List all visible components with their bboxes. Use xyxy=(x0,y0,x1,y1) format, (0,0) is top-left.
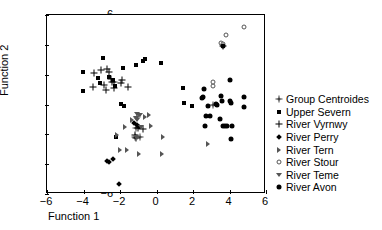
legend-marker xyxy=(272,131,286,143)
legend-marker xyxy=(272,106,286,118)
legend-marker xyxy=(272,93,286,105)
circle-icon xyxy=(215,102,220,107)
star-core xyxy=(278,98,281,101)
triangle-down-icon xyxy=(276,173,282,177)
y-tick-mark xyxy=(45,194,49,195)
circle-icon xyxy=(241,94,246,99)
legend-label: River Stour xyxy=(286,156,339,168)
legend-marker xyxy=(272,181,286,193)
circle-icon xyxy=(202,86,207,91)
legend-label: River Vyrnwy xyxy=(286,118,347,130)
square-icon xyxy=(277,110,281,114)
circle-icon xyxy=(199,96,204,101)
x-tick-label: 4 xyxy=(225,196,231,207)
circle-icon xyxy=(219,99,224,104)
legend-marker xyxy=(272,118,286,130)
circle-icon xyxy=(218,116,223,121)
plus-icon xyxy=(276,121,283,128)
legend-item[interactable]: River Stour xyxy=(272,156,380,169)
circle-icon xyxy=(205,104,210,109)
circle-icon xyxy=(229,123,234,128)
diamond-icon xyxy=(276,134,282,140)
y-axis-title: Function 2 xyxy=(0,45,10,96)
circle-icon xyxy=(203,124,208,129)
circle-icon xyxy=(228,78,233,83)
legend-marker xyxy=(272,169,286,181)
open-circle-icon xyxy=(277,160,282,165)
legend-label: River Avon xyxy=(286,181,337,193)
circle-icon xyxy=(208,114,213,119)
x-axis-title: Function 1 xyxy=(48,210,99,222)
x-tick-label: −2 xyxy=(113,196,126,207)
circle-icon xyxy=(219,93,224,98)
legend-marker xyxy=(272,144,286,156)
legend-item[interactable]: Upper Severn xyxy=(272,106,380,119)
legend: Group CentroidesUpper SevernRiver Vyrnwy… xyxy=(272,93,380,194)
legend-item[interactable]: River Tern xyxy=(272,143,380,156)
legend-item[interactable]: River Teme xyxy=(272,169,380,182)
legend-item[interactable]: River Avon xyxy=(272,181,380,194)
plot-area xyxy=(46,14,265,193)
legend-label: Upper Severn xyxy=(286,106,351,118)
x-tick-label: −6 xyxy=(40,196,53,207)
x-tick-label: 0 xyxy=(152,196,158,207)
triangle-right-icon xyxy=(277,147,281,153)
scatter-plot-figure: Function 2 Function 1 −6−4−20246−6−4−202… xyxy=(0,0,382,230)
legend-label: Group Centroides xyxy=(286,93,369,105)
x-tick-label: −4 xyxy=(76,196,89,207)
circle-icon xyxy=(228,137,233,142)
legend-item[interactable]: River Perry xyxy=(272,131,380,144)
circle-icon xyxy=(228,100,233,105)
circle-icon xyxy=(277,185,282,190)
circle-icon xyxy=(242,105,247,110)
legend-item[interactable]: River Vyrnwy xyxy=(272,118,380,131)
data-points-layer xyxy=(47,15,264,192)
legend-item[interactable]: Group Centroides xyxy=(272,93,380,106)
x-tick-label: 2 xyxy=(189,196,195,207)
x-tick-label: 6 xyxy=(262,196,268,207)
legend-label: River Teme xyxy=(286,169,339,181)
legend-label: River Perry xyxy=(286,131,339,143)
x-tick-mark xyxy=(266,190,267,194)
series-river-avon xyxy=(47,15,264,192)
circle-icon xyxy=(220,44,225,49)
legend-label: River Tern xyxy=(286,144,334,156)
legend-marker xyxy=(272,156,286,168)
star-icon xyxy=(276,96,283,103)
